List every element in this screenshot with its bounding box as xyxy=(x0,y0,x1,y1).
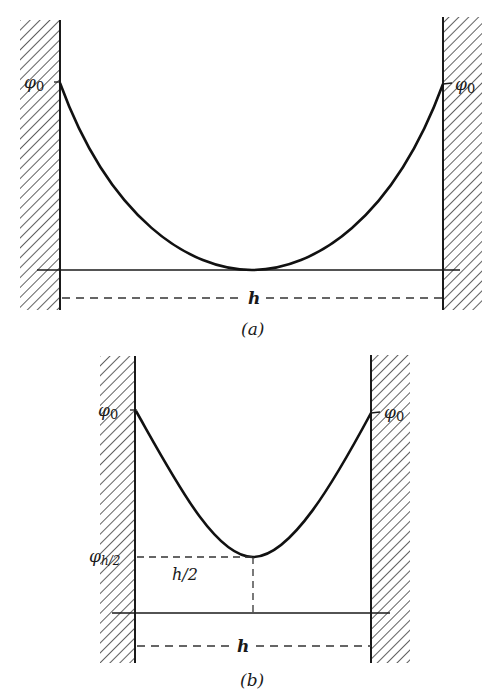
panel-a: φ0 φ0 h (a) xyxy=(20,17,482,339)
width-label-a: h xyxy=(248,288,260,308)
half-width-label: h/2 xyxy=(172,565,198,584)
left-wall-a xyxy=(20,20,60,310)
caption-b: (b) xyxy=(240,670,264,690)
right-wall-a xyxy=(443,17,482,310)
hatch-pattern-left-a xyxy=(20,20,60,310)
panel-b: φ0 φ0 φh/2 h/2 h (b) xyxy=(89,355,410,690)
caption-a: (a) xyxy=(241,319,264,339)
width-label-b: h xyxy=(237,636,249,656)
potential-diagram-figure: φ0 φ0 h (a) φ0 xyxy=(0,0,494,694)
potential-curve-b xyxy=(136,411,371,557)
hatch-pattern-right-a xyxy=(443,17,482,310)
potential-curve-a xyxy=(60,83,443,270)
